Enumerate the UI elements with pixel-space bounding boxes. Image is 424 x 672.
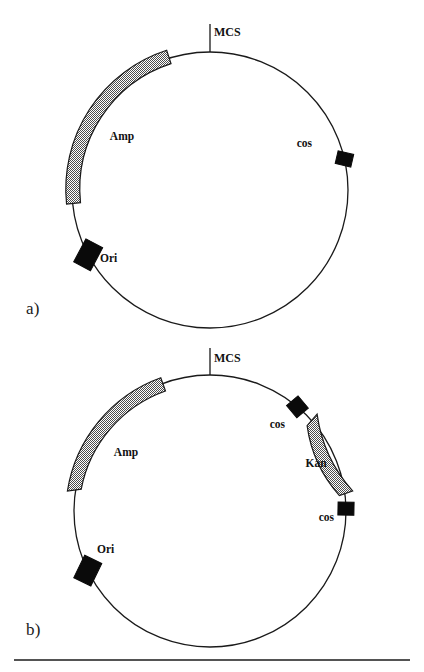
panel-label-b: b) bbox=[26, 620, 41, 640]
amp-arc-a bbox=[66, 50, 171, 204]
cos-lower-label-b: cos bbox=[319, 511, 335, 523]
ori-marker-b bbox=[74, 555, 102, 586]
amp-arc-b bbox=[67, 378, 165, 491]
ori-label-a: Ori bbox=[100, 252, 118, 264]
panel-a: MCS Amp cos Ori bbox=[66, 24, 354, 328]
ori-marker-a bbox=[74, 239, 103, 271]
ori-label-b: Ori bbox=[97, 543, 115, 555]
amp-label-b: Amp bbox=[114, 446, 138, 459]
panel-label-a: a) bbox=[26, 299, 40, 319]
panel-b: MCS Amp cos Kan cos Ori bbox=[67, 348, 354, 647]
amp-label-a: Amp bbox=[110, 130, 134, 143]
figure-container: MCS Amp cos Ori MCS Amp bbox=[0, 0, 424, 672]
cos-upper-label-b: cos bbox=[270, 418, 286, 430]
cos-label-a: cos bbox=[297, 137, 313, 149]
kan-label-b: Kan bbox=[305, 457, 327, 469]
kan-arc-b bbox=[307, 414, 352, 495]
mcs-label-a: MCS bbox=[214, 25, 241, 39]
cos-marker-a bbox=[335, 151, 354, 167]
cos-lower-marker-b bbox=[338, 502, 354, 515]
vector-map-svg: MCS Amp cos Ori MCS Amp bbox=[0, 0, 424, 672]
mcs-label-b: MCS bbox=[214, 351, 241, 365]
